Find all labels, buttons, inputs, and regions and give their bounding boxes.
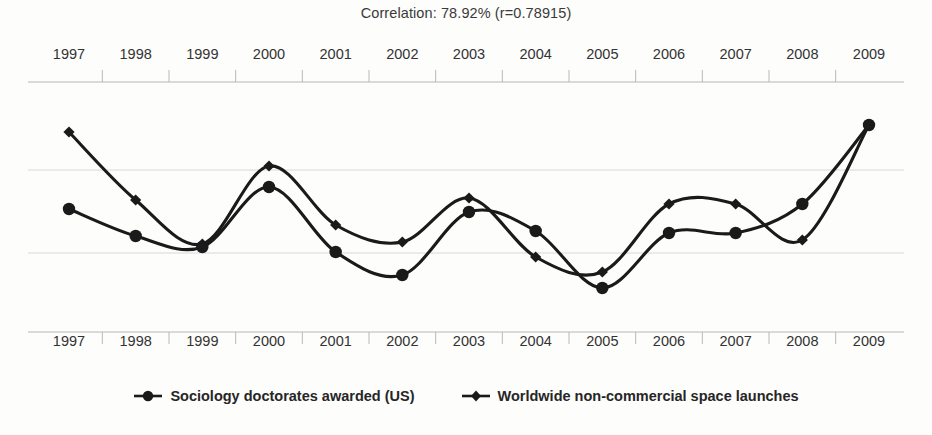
data-point-1-2007 xyxy=(730,198,741,209)
x-tick-bottom-2003: 2003 xyxy=(453,333,485,349)
x-tick-bottom-2006: 2006 xyxy=(653,333,685,349)
legend-item-sociology-doctorates[interactable]: Sociology doctorates awarded (US) xyxy=(133,388,414,404)
data-point-0-2001 xyxy=(329,246,341,258)
data-point-0-2007 xyxy=(729,227,741,239)
x-tick-bottom-1997: 1997 xyxy=(53,333,85,349)
legend-label-1: Worldwide non-commercial space launches xyxy=(498,388,799,404)
series-sociology-doctorates xyxy=(63,119,875,294)
data-point-1-2002 xyxy=(397,236,408,247)
data-point-0-1998 xyxy=(129,230,141,242)
x-tick-bottom-2008: 2008 xyxy=(786,333,818,349)
x-tick-bottom-2009: 2009 xyxy=(853,333,885,349)
x-tick-bottom-2004: 2004 xyxy=(520,333,552,349)
data-point-0-2000 xyxy=(263,181,275,193)
legend-item-space-launches[interactable]: Worldwide non-commercial space launches xyxy=(461,388,799,404)
x-tick-bottom-2005: 2005 xyxy=(586,333,618,349)
legend-label-0: Sociology doctorates awarded (US) xyxy=(170,388,414,404)
legend-marker-diamond-icon xyxy=(461,389,491,403)
x-tick-bottom-2007: 2007 xyxy=(720,333,752,349)
data-point-0-2006 xyxy=(663,227,675,239)
data-point-0-2005 xyxy=(596,282,608,294)
plot-area xyxy=(0,0,932,435)
x-tick-bottom-2002: 2002 xyxy=(386,333,418,349)
correlation-chart: Correlation: 78.92% (r=0.78915) 19971998… xyxy=(0,0,932,435)
x-tick-bottom-2001: 2001 xyxy=(320,333,352,349)
x-tick-bottom-2000: 2000 xyxy=(253,333,285,349)
series-space-launches xyxy=(63,119,874,277)
legend-marker-circle-icon xyxy=(133,389,163,403)
x-axis-labels-bottom: 1997199819992000200120022003200420052006… xyxy=(0,333,932,355)
chart-legend: Sociology doctorates awarded (US) Worldw… xyxy=(0,388,932,404)
data-point-0-2004 xyxy=(529,225,541,237)
data-point-0-2008 xyxy=(796,198,808,210)
data-point-0-2003 xyxy=(463,206,475,218)
data-point-0-2002 xyxy=(396,269,408,281)
x-tick-bottom-1998: 1998 xyxy=(120,333,152,349)
data-point-0-1997 xyxy=(63,203,75,215)
data-point-1-2005 xyxy=(597,266,608,277)
data-point-1-2003 xyxy=(463,192,474,203)
x-tick-bottom-1999: 1999 xyxy=(186,333,218,349)
